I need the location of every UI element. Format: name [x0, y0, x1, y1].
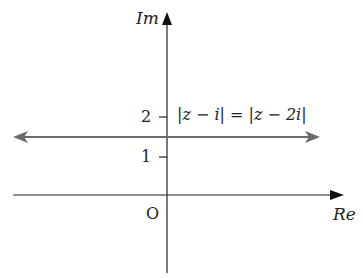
x-axis-label: Re — [333, 204, 356, 224]
tick-label-1: 1 — [141, 147, 151, 166]
imaginary-axis-arrowhead-icon — [162, 12, 172, 25]
real-axis-arrowhead-icon — [330, 190, 344, 200]
y-axis-label: Im — [136, 8, 159, 28]
tick-label-2: 2 — [141, 107, 151, 126]
locus-equation-text: |z − i| = |z − 2i| — [177, 105, 307, 124]
argand-diagram — [0, 0, 363, 278]
origin-label: O — [146, 204, 159, 223]
locus-equation: |z − i| = |z − 2i| — [177, 105, 307, 124]
